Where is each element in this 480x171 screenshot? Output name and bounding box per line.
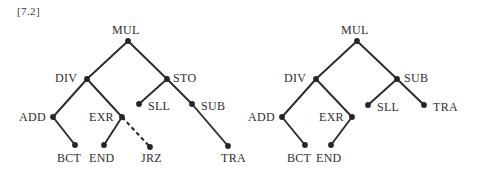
tree-node-label-l-bct: BCT (57, 151, 82, 165)
tree-node-label-r-sub: SUB (404, 71, 428, 85)
tree-node-label-r-tra: TRA (433, 100, 458, 114)
tree-node-l-bct[interactable] (72, 142, 78, 148)
tree-node-r-exr[interactable] (349, 114, 355, 120)
tree-node-label-r-div: DIV (284, 71, 306, 85)
binary-tree-diagram: MULDIVSTOADDEXRSLLSUBBCTENDJRZTRAMULDIVS… (0, 0, 480, 171)
tree-edge-r-mul-to-r-sub (357, 41, 397, 79)
tree-edge-l-mul-to-l-div (87, 41, 128, 79)
tree-node-l-sll[interactable] (136, 101, 142, 107)
tree-edge-l-add-to-l-bct (53, 117, 75, 145)
tree-node-l-sub[interactable] (189, 101, 195, 107)
tree-node-r-add[interactable] (279, 114, 285, 120)
tree-node-label-r-sll: SLL (377, 100, 399, 114)
tree-node-l-div[interactable] (84, 76, 90, 82)
tree-node-label-l-add: ADD (19, 110, 46, 124)
tree-node-r-bct[interactable] (302, 142, 308, 148)
tree-edge-l-exr-to-l-jrz (122, 117, 150, 147)
tree-node-l-mul[interactable] (125, 38, 131, 44)
tree-node-l-add[interactable] (50, 114, 56, 120)
tree-node-r-end[interactable] (328, 142, 334, 148)
tree-node-r-tra[interactable] (421, 102, 427, 108)
tree-node-label-r-mul: MUL (341, 23, 369, 37)
tree-node-r-div[interactable] (313, 76, 319, 82)
tree-node-label-l-mul: MUL (112, 23, 140, 37)
tree-edge-l-mul-to-l-sto (128, 41, 167, 79)
tree-node-l-jrz[interactable] (147, 144, 153, 150)
tree-node-l-tra[interactable] (225, 143, 231, 149)
tree-node-label-l-end: END (89, 151, 115, 165)
tree-node-l-sto[interactable] (164, 76, 170, 82)
tree-node-label-l-div: DIV (55, 71, 77, 85)
edges-layer (53, 41, 424, 147)
tree-node-label-r-end: END (316, 151, 342, 165)
tree-node-r-sub[interactable] (394, 76, 400, 82)
tree-node-label-r-exr: EXR (319, 110, 344, 124)
tree-node-label-l-sto: STO (173, 71, 196, 85)
tree-node-label-l-exr: EXR (89, 110, 114, 124)
tree-node-label-l-tra: TRA (221, 151, 246, 165)
tree-node-label-r-add: ADD (248, 110, 275, 124)
labels-layer: MULDIVSTOADDEXRSLLSUBBCTENDJRZTRAMULDIVS… (19, 23, 458, 165)
tree-edge-r-mul-to-r-div (316, 41, 357, 79)
tree-edge-r-add-to-r-bct (282, 117, 305, 145)
tree-node-l-end[interactable] (101, 142, 107, 148)
tree-node-label-r-bct: BCT (287, 151, 312, 165)
tree-node-label-l-jrz: JRZ (141, 151, 162, 165)
tree-node-r-mul[interactable] (354, 38, 360, 44)
tree-node-label-l-sll: SLL (148, 99, 170, 113)
tree-node-l-exr[interactable] (119, 114, 125, 120)
tree-node-r-sll[interactable] (365, 102, 371, 108)
tree-node-label-l-sub: SUB (201, 99, 225, 113)
figure-container: [7.2] MULDIVSTOADDEXRSLLSUBBCTENDJRZTRAM… (0, 0, 480, 171)
